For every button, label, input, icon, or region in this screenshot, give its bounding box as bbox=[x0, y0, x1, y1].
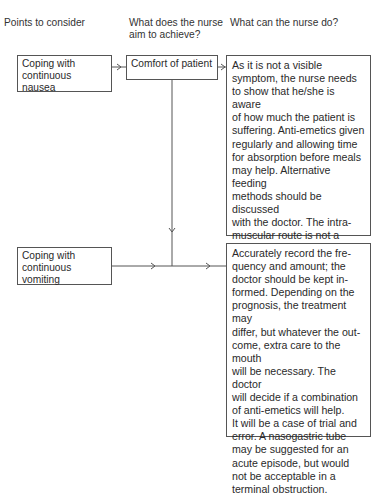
aim-label: Comfort of patient bbox=[131, 58, 213, 70]
action-line: will be necessary. The doctor bbox=[232, 365, 365, 391]
action-line: prognosis, the treatment may bbox=[232, 299, 365, 325]
action-line: will decide if a combination bbox=[232, 391, 365, 404]
point-line: continuous bbox=[22, 262, 107, 274]
action-line: error. A nasogastric tube bbox=[232, 430, 365, 443]
action-line: quency and amount; the bbox=[232, 260, 365, 273]
point-line: continuous bbox=[22, 70, 107, 82]
point-line: Coping with bbox=[22, 58, 107, 70]
action-line: to show that he/she is aware bbox=[232, 85, 365, 111]
action-line: formed. Depending on the bbox=[232, 286, 365, 299]
action-line: methods should be discussed bbox=[232, 190, 365, 216]
point-line: Coping with bbox=[22, 250, 107, 262]
action-line: doctor should be kept in- bbox=[232, 273, 365, 286]
point-line: vomiting bbox=[22, 274, 107, 286]
action-line: with the doctor. The intra- bbox=[232, 216, 365, 229]
action-line: may help. Alternative feeding bbox=[232, 164, 365, 190]
action-line: symptom, the nurse needs bbox=[232, 72, 365, 85]
action-line: come, extra care to the mouth bbox=[232, 339, 365, 365]
action-line: acute episode, but would bbox=[232, 457, 365, 470]
action-line: differ, but whatever the out- bbox=[232, 326, 365, 339]
action-line: of anti-emetics will help. bbox=[232, 404, 365, 417]
action-line: for absorption before meals bbox=[232, 151, 365, 164]
point-line: nausea bbox=[22, 82, 107, 94]
action-line: not be acceptable in a bbox=[232, 470, 365, 483]
action-line: regularly and allowing time bbox=[232, 138, 365, 151]
point-box-nausea: Coping with continuous nausea bbox=[17, 55, 112, 92]
action-line: suffering. Anti-emetics given bbox=[232, 124, 365, 137]
action-line: terminal obstruction. bbox=[232, 483, 365, 496]
action-line: Accurately record the fre- bbox=[232, 247, 365, 260]
action-box-vomiting: Accurately record the fre- quency and am… bbox=[226, 243, 371, 437]
aim-box-comfort: Comfort of patient bbox=[126, 55, 218, 80]
action-line: It will be a case of trial and bbox=[232, 417, 365, 430]
action-line: of how much the patient is bbox=[232, 111, 365, 124]
action-line: As it is not a visible bbox=[232, 59, 365, 72]
point-box-vomiting: Coping with continuous vomiting bbox=[17, 247, 112, 285]
action-line: may be suggested for an bbox=[232, 443, 365, 456]
action-box-nausea: As it is not a visible symptom, the nurs… bbox=[226, 55, 371, 236]
